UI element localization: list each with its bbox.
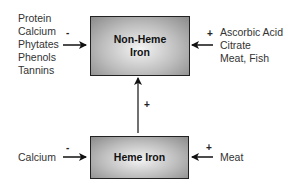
list-item: Phytates: [18, 38, 59, 51]
non-heme-label-line1: Non-Heme: [114, 33, 167, 46]
heme-label: Heme Iron: [114, 151, 165, 164]
heme-enhancer-sign: +: [206, 143, 212, 153]
heme-to-non-heme-sign: +: [144, 100, 150, 110]
list-item: Tannins: [18, 64, 59, 77]
heme-inhibitor-sign: -: [66, 143, 69, 153]
list-item: Meat, Fish: [220, 52, 283, 65]
list-item: Meat: [220, 151, 243, 164]
list-item: Calcium: [18, 151, 56, 164]
list-item: Protein: [18, 12, 59, 25]
list-item: Ascorbic Acid: [220, 26, 283, 39]
heme-inhibitors-list: Calcium: [18, 151, 56, 164]
non-heme-inhibitors-list: Protein Calcium Phytates Phenols Tannins: [18, 12, 59, 77]
list-item: Phenols: [18, 51, 59, 64]
non-heme-enhancer-sign: +: [207, 29, 213, 39]
non-heme-iron-box: Non-Heme Iron: [90, 16, 190, 76]
heme-enhancers-list: Meat: [220, 151, 243, 164]
list-item: Citrate: [220, 39, 283, 52]
list-item: Calcium: [18, 25, 59, 38]
non-heme-label-line2: Iron: [114, 46, 167, 59]
non-heme-inhibitor-sign: -: [66, 28, 69, 38]
non-heme-enhancers-list: Ascorbic Acid Citrate Meat, Fish: [220, 26, 283, 65]
heme-iron-box: Heme Iron: [90, 136, 189, 179]
